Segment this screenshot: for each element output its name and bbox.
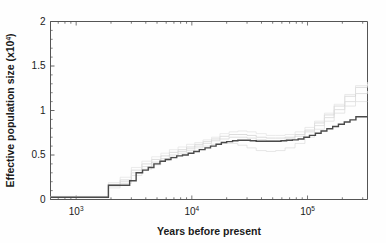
x-tick-base: 10 <box>184 206 196 217</box>
series-line-ci <box>51 91 368 197</box>
y-axis-title-tail: ) <box>4 33 16 37</box>
series-line-main <box>51 117 368 198</box>
x-tick-base: 10 <box>300 206 312 217</box>
x-tick-label: 104 <box>184 205 199 217</box>
y-axis-title: Effective population size (x104) <box>4 33 16 187</box>
series-line-ci <box>51 102 368 198</box>
y-tick-label: 1 <box>40 105 46 116</box>
y-tick-label: 0.5 <box>32 149 46 160</box>
x-axis-title: Years before present <box>157 225 261 237</box>
x-tick-base: 10 <box>69 206 81 217</box>
series-line-ci <box>51 82 368 197</box>
plot-frame <box>51 22 368 200</box>
x-tick-labels: 103104105 <box>69 205 315 217</box>
y-tick-label: 2 <box>40 16 46 27</box>
series-group <box>51 82 368 198</box>
x-tick-label: 105 <box>300 205 315 217</box>
x-tick-exponent: 3 <box>80 205 84 212</box>
x-minor-ticks <box>51 22 363 200</box>
y-tick-label: 1.5 <box>32 60 46 71</box>
series-line-ci <box>51 84 368 197</box>
x-tick-label: 103 <box>69 205 84 217</box>
y-tick-label: 0 <box>40 194 46 205</box>
chart-canvas: 00.511.52103104105Years before presentEf… <box>0 0 386 243</box>
x-tick-exponent: 4 <box>196 205 200 212</box>
x-tick-exponent: 5 <box>311 205 315 212</box>
y-axis-title-base: Effective population size (x10 <box>4 40 16 187</box>
figure-container: 00.511.52103104105Years before presentEf… <box>0 0 386 243</box>
y-ticks: 00.511.52 <box>32 16 55 205</box>
